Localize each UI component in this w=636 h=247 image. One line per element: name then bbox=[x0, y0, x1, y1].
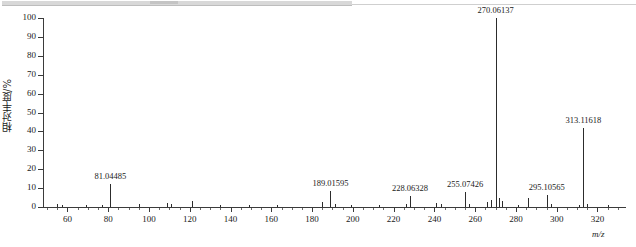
y-tick-label: 90 bbox=[5, 32, 36, 41]
y-tick-label: 10 bbox=[5, 183, 36, 192]
x-tick-major bbox=[108, 208, 109, 212]
x-tick-label: 280 bbox=[496, 214, 536, 224]
x-tick-minor bbox=[526, 208, 527, 210]
x-tick-minor bbox=[261, 208, 262, 210]
x-tick-label: 80 bbox=[88, 214, 128, 224]
mass-spectrum-screenshot: 相对丰度/% 0102030405060708090100 6080100120… bbox=[0, 0, 636, 247]
y-tick-label: 0 bbox=[5, 202, 36, 211]
toolbar-notch bbox=[150, 1, 178, 4]
peak-bar bbox=[277, 205, 278, 207]
peak-bar bbox=[379, 205, 380, 207]
x-tick-label: 140 bbox=[211, 214, 251, 224]
x-tick-minor bbox=[139, 208, 140, 210]
peak-bar bbox=[86, 205, 87, 207]
peak-bar-labeled bbox=[110, 184, 111, 207]
y-tick bbox=[38, 188, 43, 189]
peak-label: 313.11618 bbox=[548, 116, 618, 125]
x-tick-minor bbox=[577, 208, 578, 210]
peak-bar bbox=[436, 203, 437, 207]
x-tick-minor bbox=[608, 208, 609, 210]
window-chrome-strip bbox=[0, 0, 636, 7]
y-tick-label: 60 bbox=[5, 89, 36, 98]
x-tick-major bbox=[597, 208, 598, 212]
x-tick-label: 320 bbox=[577, 214, 617, 224]
peak-label: 255.07426 bbox=[430, 180, 500, 189]
x-tick-minor bbox=[251, 208, 252, 210]
peak-bar bbox=[62, 205, 63, 207]
y-tick bbox=[38, 150, 43, 151]
x-tick-minor bbox=[567, 208, 568, 210]
x-tick-minor bbox=[363, 208, 364, 210]
peak-label: 270.06137 bbox=[461, 6, 531, 15]
peak-bar bbox=[587, 204, 588, 207]
y-tick-label: 80 bbox=[5, 51, 36, 60]
y-tick bbox=[38, 37, 43, 38]
x-tick-label: 60 bbox=[47, 214, 87, 224]
x-tick-label: 200 bbox=[333, 214, 373, 224]
x-tick-major bbox=[557, 208, 558, 212]
x-tick-minor bbox=[414, 208, 415, 210]
x-tick-minor bbox=[98, 208, 99, 210]
spectrum-plot-area: 相对丰度/% 0102030405060708090100 6080100120… bbox=[0, 7, 636, 247]
peak-bar bbox=[249, 205, 250, 207]
x-tick-minor bbox=[383, 208, 384, 210]
x-tick-minor bbox=[241, 208, 242, 210]
peak-bar bbox=[502, 201, 503, 207]
peak-bar bbox=[579, 205, 580, 207]
peak-bar-labeled bbox=[547, 195, 548, 207]
y-tick bbox=[38, 207, 43, 208]
peak-bar bbox=[171, 204, 172, 207]
peak-bar bbox=[322, 202, 323, 207]
y-tick-label: 50 bbox=[5, 108, 36, 117]
x-tick-minor bbox=[485, 208, 486, 210]
toolbar-strip bbox=[2, 1, 352, 6]
y-tick-label: 100 bbox=[5, 13, 36, 22]
x-tick-major bbox=[271, 208, 272, 212]
x-tick-minor bbox=[200, 208, 201, 210]
peak-bar bbox=[192, 201, 193, 207]
x-tick-minor bbox=[78, 208, 79, 210]
y-tick bbox=[38, 56, 43, 57]
x-tick-minor bbox=[506, 208, 507, 210]
y-tick bbox=[38, 169, 43, 170]
x-tick-label: 260 bbox=[455, 214, 495, 224]
x-tick-minor bbox=[455, 208, 456, 210]
x-tick-major bbox=[231, 208, 232, 212]
x-tick-minor bbox=[57, 208, 58, 210]
x-tick-minor bbox=[180, 208, 181, 210]
y-tick bbox=[38, 18, 43, 19]
peak-bar bbox=[167, 203, 168, 207]
peak-bar bbox=[102, 205, 103, 207]
peak-bar bbox=[608, 205, 609, 207]
x-tick-minor bbox=[587, 208, 588, 210]
peak-bar bbox=[351, 205, 352, 207]
x-tick-major bbox=[67, 208, 68, 212]
x-axis-line bbox=[43, 207, 626, 208]
peak-label: 189.01595 bbox=[295, 179, 365, 188]
y-axis-line bbox=[43, 18, 44, 208]
x-tick-label: 300 bbox=[537, 214, 577, 224]
x-tick-minor bbox=[547, 208, 548, 210]
peak-bar bbox=[487, 202, 488, 207]
peak-bar-labeled bbox=[410, 196, 411, 207]
peak-bar bbox=[551, 204, 552, 207]
x-tick-minor bbox=[47, 208, 48, 210]
x-tick-minor bbox=[129, 208, 130, 210]
x-tick-major bbox=[434, 208, 435, 212]
x-tick-label: 100 bbox=[129, 214, 169, 224]
peak-bar bbox=[499, 198, 500, 207]
x-tick-minor bbox=[88, 208, 89, 210]
peak-bar-labeled bbox=[465, 192, 466, 207]
x-tick-minor bbox=[220, 208, 221, 210]
peak-bar bbox=[57, 204, 58, 207]
x-tick-minor bbox=[465, 208, 466, 210]
peak-label: 295.10565 bbox=[512, 183, 582, 192]
x-tick-label: 220 bbox=[374, 214, 414, 224]
peak-bar-labeled bbox=[330, 191, 331, 207]
y-tick bbox=[38, 75, 43, 76]
peak-bar-labeled bbox=[496, 18, 497, 207]
x-tick-major bbox=[353, 208, 354, 212]
y-axis-title: 相对丰度/% bbox=[2, 79, 16, 132]
x-tick-major bbox=[394, 208, 395, 212]
peak-bar bbox=[518, 205, 519, 207]
